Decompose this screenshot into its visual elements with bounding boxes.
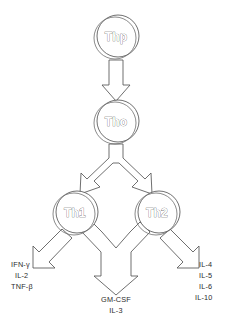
node-th1-label: Th1 (64, 206, 86, 220)
arrow-th1-to-left-cytokines (33, 229, 72, 268)
cytokine-item-il-3: IL-3 (109, 306, 122, 315)
arrow-thp-to-tho (102, 60, 130, 101)
cytokine-item-il-10: IL-10 (195, 293, 213, 302)
cytokine-item-tnf-beta: TNF-β (11, 282, 33, 291)
arrow-tho-fork-to-th1-th2 (80, 144, 152, 194)
arrow-th1-th2-merge-to-shared-cytokines (82, 222, 150, 295)
node-tho-label: Tho (105, 115, 128, 129)
node-tho: Tho (94, 100, 139, 144)
cytokine-item-il-4: IL-4 (199, 260, 212, 269)
th1-cytokine-list: IFN-γ IL-2 TNF-β (11, 260, 33, 291)
arrow-th2-to-right-cytokines (160, 229, 199, 268)
node-thp: Thp (94, 15, 139, 59)
cytokine-item-il-6: IL-6 (199, 282, 212, 291)
node-thp-label: Thp (105, 30, 128, 44)
cytokine-item-gm-csf: GM-CSF (101, 295, 131, 304)
shared-cytokine-list: GM-CSF IL-3 (101, 295, 131, 315)
th1-th2-differentiation-diagram: Thp Tho Th1 Th2 (0, 0, 232, 318)
diagram-canvas: Thp Tho Th1 Th2 (0, 0, 232, 318)
cytokine-item-il-5: IL-5 (199, 271, 212, 280)
node-th2-label: Th2 (146, 206, 168, 220)
cytokine-item-ifn-gamma: IFN-γ (11, 260, 30, 269)
cytokine-item-il-2: IL-2 (15, 271, 28, 280)
